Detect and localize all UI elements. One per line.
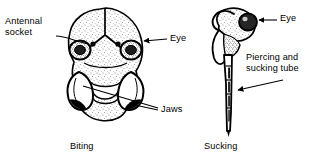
insect-mouthparts-figure: Antennal socket Eye Jaws Eye Piercing an… [0,0,320,168]
compound-eye-left-inner [75,45,86,54]
caption-sucking: Sucking [204,141,237,151]
caption-biting: Biting [70,141,94,151]
antennal-socket-right [115,41,120,46]
label-eye-biting: Eye [170,33,186,44]
biting-insect-head-drawing [67,8,143,121]
proboscis-tip [227,131,230,137]
antennal-socket-left [90,41,95,46]
label-jaws: Jaws [161,104,182,115]
figure-artwork [0,0,320,168]
label-antennal-socket: Antennal socket [5,16,42,37]
sucking-compound-eye-highlight [242,17,247,21]
leader-eye-left [144,39,167,41]
label-eye-sucking: Eye [280,13,296,24]
sucking-compound-eye [239,14,257,31]
compound-eye-right-inner [126,45,137,54]
label-piercing-and-sucking-tube: Piercing and sucking tube [246,52,299,73]
leader-piercing-sucking-tube [238,80,283,90]
